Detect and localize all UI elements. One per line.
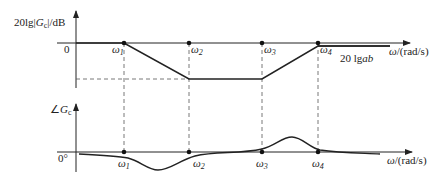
magnitude-zero-label: 0 [64, 43, 70, 55]
magnitude-y-label: 20lg|Gc|/dB [14, 16, 65, 30]
phase-zero-label: 0° [58, 152, 68, 164]
phase-y-label: ∠Gc [50, 103, 72, 117]
omega1-upper-label: ω1 [112, 43, 124, 57]
bode-diagram: 20lg|Gc|/dB 0 ω1 ω2 ω3 ω4 20 lgab ω/(rad… [0, 0, 443, 184]
omega4-lower-label: ω4 [312, 157, 324, 171]
phase-x-label: ω/(rad/s) [387, 154, 427, 167]
frequency-guides [76, 43, 318, 152]
omega3-lower-label: ω3 [256, 157, 268, 171]
omega2-upper-label: ω2 [191, 43, 203, 57]
omega1-lower-label: ω1 [118, 157, 130, 171]
omega2-lower-label: ω2 [193, 157, 205, 171]
omega4-upper-label: ω4 [320, 43, 332, 57]
omega3-upper-label: ω3 [264, 43, 276, 57]
gain-annotation: 20 lgab [340, 52, 374, 64]
magnitude-x-label: ω/(rad/s) [389, 45, 429, 58]
